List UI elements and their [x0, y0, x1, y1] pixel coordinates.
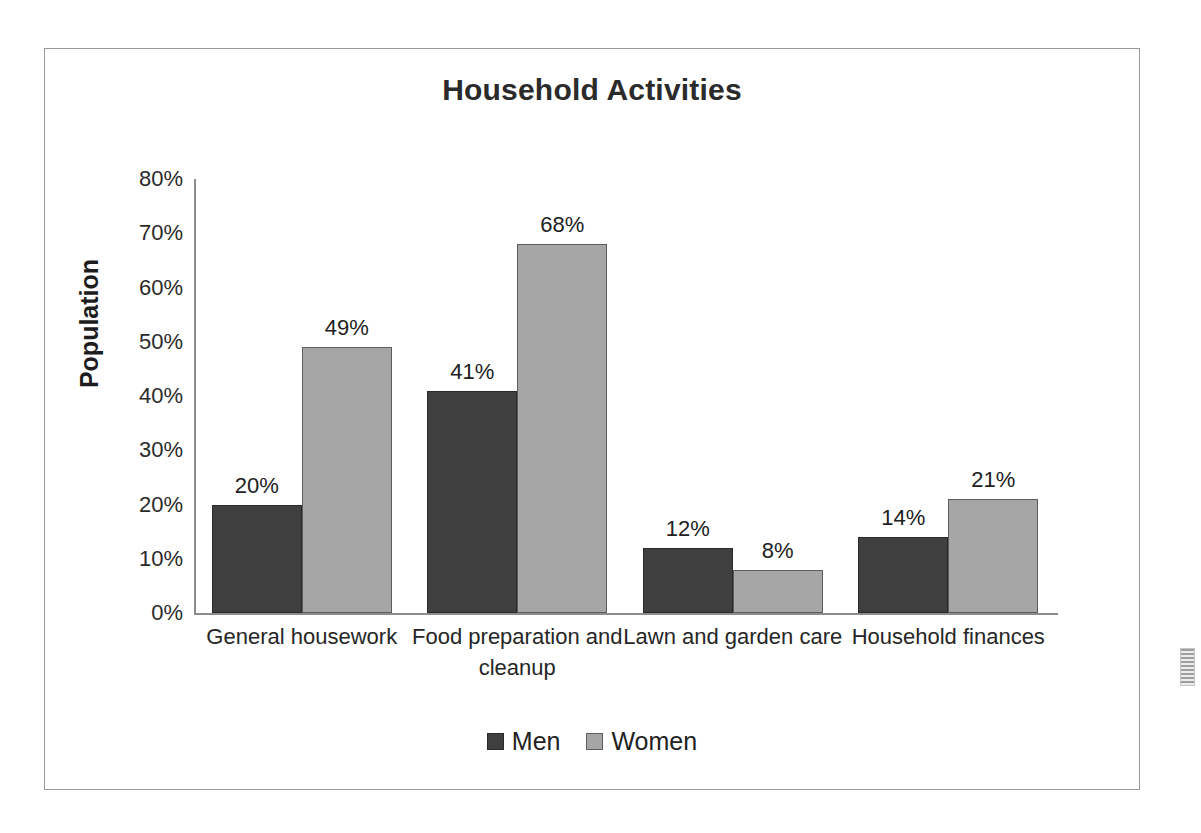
chart-legend: MenWomen	[45, 727, 1139, 756]
bar-group: 41%68%	[410, 179, 626, 613]
legend-item-men[interactable]: Men	[487, 727, 561, 756]
bar-value-label: 49%	[302, 315, 392, 341]
y-axis-tick-labels: 80%70%60%50%40%30%20%10%0%	[55, 179, 183, 613]
bars-layer: 20%49%41%68%12%8%14%21%	[194, 179, 1056, 613]
y-axis-tick-label: 20%	[63, 492, 183, 518]
y-axis-tick-label: 10%	[63, 546, 183, 572]
y-axis-tick-label: 50%	[63, 329, 183, 355]
bar-value-label: 41%	[427, 359, 517, 385]
chart-frame: Household Activities Population 80%70%60…	[44, 48, 1140, 790]
legend-label: Men	[512, 727, 561, 756]
bar-men-1[interactable]	[212, 505, 302, 614]
bar-value-label: 68%	[517, 212, 607, 238]
bar-men-2[interactable]	[427, 391, 517, 613]
y-axis-tick-label: 30%	[63, 437, 183, 463]
chart-title: Household Activities	[45, 73, 1139, 107]
category-label-1: General housework	[190, 621, 414, 652]
bar-men-4[interactable]	[858, 537, 948, 613]
bar-value-label: 20%	[212, 473, 302, 499]
x-axis-category-labels: General houseworkFood preparation and cl…	[194, 621, 1056, 701]
bar-group: 12%8%	[625, 179, 841, 613]
legend-item-women[interactable]: Women	[586, 727, 697, 756]
legend-swatch-icon	[586, 733, 603, 750]
bar-women-4[interactable]	[948, 499, 1038, 613]
category-label-2: Food preparation and cleanup	[406, 621, 630, 683]
legend-swatch-icon	[487, 733, 504, 750]
category-label-4: Household finances	[837, 621, 1061, 652]
bar-men-3[interactable]	[643, 548, 733, 613]
category-label-3: Lawn and garden care	[621, 621, 845, 652]
y-axis-tick-label: 80%	[63, 166, 183, 192]
bar-group: 14%21%	[841, 179, 1057, 613]
y-axis-tick-label: 0%	[63, 600, 183, 626]
legend-label: Women	[611, 727, 697, 756]
x-axis-line	[194, 613, 1058, 615]
bar-value-label: 8%	[733, 538, 823, 564]
scan-artifact	[1180, 648, 1195, 686]
y-axis-tick-label: 60%	[63, 275, 183, 301]
y-axis-tick-label: 70%	[63, 220, 183, 246]
bar-value-label: 21%	[948, 467, 1038, 493]
y-axis-tick-label: 40%	[63, 383, 183, 409]
bar-group: 20%49%	[194, 179, 410, 613]
bar-women-3[interactable]	[733, 570, 823, 613]
bar-value-label: 14%	[858, 505, 948, 531]
bar-women-2[interactable]	[517, 244, 607, 613]
bar-value-label: 12%	[643, 516, 733, 542]
bar-women-1[interactable]	[302, 347, 392, 613]
